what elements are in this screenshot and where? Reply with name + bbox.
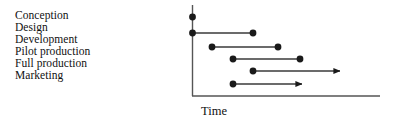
timeline-start-dot-full-production [250, 68, 257, 75]
timeline-chart [0, 0, 400, 126]
timeline-start-dot-development [209, 44, 216, 51]
timeline-chart-svg [0, 0, 400, 126]
x-axis-label: Time [201, 104, 227, 119]
timeline-end-dot-development [275, 44, 282, 51]
timeline-bar-full-production [250, 68, 340, 75]
timeline-bar-conception [189, 14, 196, 21]
timeline-start-dot-pilot-production [230, 56, 237, 63]
chart-axes [192, 5, 380, 96]
timeline-start-dot-marketing [230, 81, 237, 88]
timeline-bar-pilot-production [230, 56, 304, 63]
timeline-bar-development [209, 44, 282, 51]
timeline-end-dot-pilot-production [297, 56, 304, 63]
timeline-start-dot-design [189, 30, 196, 37]
timeline-end-dot-design [250, 30, 257, 37]
timeline-bar-marketing [230, 81, 302, 88]
timeline-bar-design [189, 30, 256, 37]
figure-canvas: Conception Design Development Pilot prod… [0, 0, 400, 126]
timeline-start-dot-conception [189, 14, 196, 21]
